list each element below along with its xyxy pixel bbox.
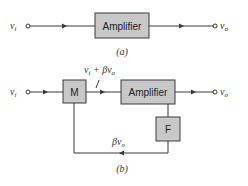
output-label-a: vo xyxy=(220,20,228,33)
output-terminal-b xyxy=(213,90,217,94)
amplifier-label-a: Amplifier xyxy=(103,21,143,32)
feedback-label: F xyxy=(165,124,171,135)
caption-b: (b) xyxy=(116,163,128,175)
sum-signal-pointer xyxy=(96,80,99,88)
diagram-a: vi Amplifier vo (a) xyxy=(10,13,228,58)
feedback-signal-label: βvo xyxy=(111,136,125,149)
feedback-amplifier-diagram: vi Amplifier vo (a) vi M vi + βvo Amplif… xyxy=(0,0,248,186)
arrow-icon xyxy=(179,24,184,29)
input-label-b: vi xyxy=(10,86,16,99)
sum-signal-label: vi + βvo xyxy=(84,64,116,77)
output-label-b: vo xyxy=(220,86,228,99)
input-label-a: vi xyxy=(10,20,16,33)
mixer-label: M xyxy=(70,87,78,98)
arrow-icon xyxy=(43,90,48,95)
arrow-icon xyxy=(62,24,67,29)
arrow-icon xyxy=(100,90,105,95)
arrow-icon xyxy=(119,151,124,156)
amplifier-label-b: Amplifier xyxy=(129,87,169,98)
input-terminal-a xyxy=(26,24,30,28)
arrow-icon xyxy=(191,90,196,95)
input-terminal-b xyxy=(26,90,30,94)
caption-a: (a) xyxy=(116,46,128,58)
output-terminal-a xyxy=(213,24,217,28)
diagram-b: vi M vi + βvo Amplifier vo F βvo (b) xyxy=(10,64,228,175)
